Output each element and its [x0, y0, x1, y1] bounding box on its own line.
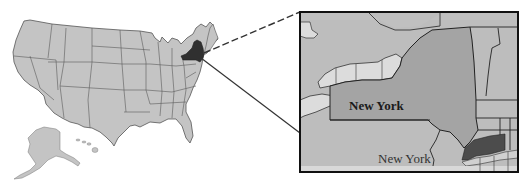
us-map [13, 20, 218, 179]
alaska [14, 127, 80, 179]
map-figure: New York New York [0, 0, 524, 183]
inset-map: New York New York [300, 12, 518, 172]
dashed-connector [204, 12, 300, 53]
map-svg: New York New York [0, 0, 524, 183]
state-label: New York [349, 98, 405, 113]
solid-connector [201, 58, 300, 133]
city-label: New York [378, 151, 431, 166]
hawaii [76, 139, 98, 153]
